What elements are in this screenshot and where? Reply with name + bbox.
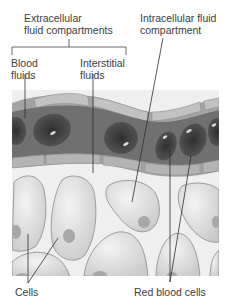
nucleus (63, 229, 75, 243)
label-interstitial-line2: fluids (80, 69, 125, 81)
red-blood-cell (208, 118, 226, 146)
label-extracellular-line1: Extracellular (24, 12, 113, 24)
tissue-cell (51, 176, 96, 260)
label-extracellular-line2: fluid compartments (24, 24, 113, 36)
nucleus (138, 216, 150, 228)
label-blood-fluids: Blood fluids (11, 57, 38, 81)
red-blood-cell (6, 117, 26, 145)
nucleus (212, 216, 220, 228)
nucleus (93, 271, 107, 279)
label-intracellular: Intracellular fluid compartment (140, 12, 216, 36)
label-cells: Cells (15, 286, 38, 298)
label-interstitial-line1: Interstitial (80, 57, 125, 69)
label-red-blood-cells: Red blood cells (134, 286, 206, 298)
label-intracellular-line1: Intracellular fluid (140, 12, 216, 24)
fluid-compartments-diagram (0, 0, 227, 305)
label-blood-line2: fluids (11, 69, 38, 81)
label-interstitial-fluids: Interstitial fluids (80, 57, 125, 81)
extracellular-bracket (12, 39, 126, 55)
nucleus (167, 272, 177, 278)
tissue-region (6, 90, 226, 279)
label-blood-line1: Blood (11, 57, 38, 69)
label-intracellular-line2: compartment (140, 24, 216, 36)
nucleus (11, 225, 21, 239)
nucleus (16, 273, 28, 279)
red-blood-cell (104, 122, 138, 154)
label-extracellular: Extracellular fluid compartments (24, 12, 113, 36)
